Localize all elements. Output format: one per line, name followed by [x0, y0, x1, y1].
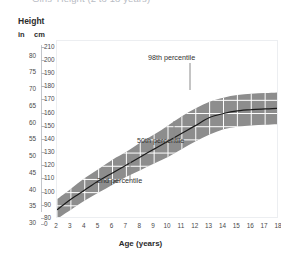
y-tick-cm-140: 140 — [44, 135, 55, 142]
x-axis-tick-labels: 23456789101112131415161718 — [56, 222, 278, 234]
x-tick-13: 13 — [205, 222, 212, 229]
y-tick-in-60: 60 — [18, 119, 36, 126]
y-tick-cm-130: 130 — [44, 148, 55, 155]
annotation-98th-percentile: 98th percentile — [148, 53, 195, 62]
y-tick-mark-160 — [41, 113, 45, 114]
x-tick-6: 6 — [110, 222, 114, 229]
y-tick-cm-200: 200 — [44, 56, 55, 63]
x-tick-10: 10 — [163, 222, 170, 229]
x-tick-4: 4 — [82, 222, 86, 229]
y-tick-cm-110: 110 — [44, 174, 54, 181]
y-tick-mark-200 — [41, 60, 45, 61]
y-tick-in-45: 45 — [18, 169, 36, 176]
y-tick-cm-120: 120 — [44, 161, 55, 168]
annotation-2nd-percentile: 2nd percentile — [97, 176, 142, 185]
x-tick-2: 2 — [54, 222, 58, 229]
y-tick-in-75: 75 — [18, 68, 36, 75]
y-tick-mark-110 — [41, 178, 45, 179]
y-tick-in-80: 80 — [18, 52, 36, 59]
x-tick-11: 11 — [178, 222, 185, 229]
y-tick-cm-190: 190 — [44, 69, 55, 76]
x-tick-16: 16 — [247, 222, 254, 229]
y-axis-spine — [41, 45, 42, 212]
x-tick-3: 3 — [68, 222, 72, 229]
y-tick-cm-180: 180 — [44, 82, 55, 89]
x-tick-5: 5 — [96, 222, 100, 229]
x-tick-12: 12 — [191, 222, 198, 229]
y-tick-cm-150: 150 — [44, 122, 55, 129]
y-tick-cm-90: 90 — [44, 201, 51, 208]
y-tick-in-40: 40 — [18, 186, 36, 193]
y-tick-mark-210 — [41, 47, 45, 48]
y-tick-in-70: 70 — [18, 85, 36, 92]
x-tick-18: 18 — [274, 222, 281, 229]
y-tick-mark-190 — [41, 73, 45, 74]
y-tick-cm-160: 160 — [44, 109, 55, 116]
y-tick-mark-140 — [41, 139, 45, 140]
x-tick-15: 15 — [233, 222, 240, 229]
y-tick-mark-90 — [41, 205, 45, 206]
y-tick-in-55: 55 — [18, 135, 36, 142]
x-tick-14: 14 — [219, 222, 226, 229]
y-tick-mark-100 — [41, 192, 45, 193]
y-tick-mark-120 — [41, 165, 45, 166]
y-tick-in-65: 65 — [18, 102, 36, 109]
y-tick-in-30: 30 — [18, 219, 36, 226]
y-tick-in-50: 50 — [18, 152, 36, 159]
growth-chart-svg — [57, 41, 278, 218]
y-tick-cm-210: 210 — [44, 43, 55, 50]
x-tick-17: 17 — [261, 222, 268, 229]
x-axis-title: Age (years) — [0, 239, 281, 248]
y-tick-mark-80 — [41, 218, 45, 219]
y-tick-in-35: 35 — [18, 202, 36, 209]
chart-title-strip: Girls' Height (2 to 18 years) — [0, 0, 281, 11]
y-tick-mark-0 — [41, 224, 45, 225]
y-tick-cm-170: 170 — [44, 95, 55, 102]
x-tick-8: 8 — [137, 222, 141, 229]
annotation-50th-percentile: 50th percentile — [137, 136, 184, 145]
y-tick-mark-180 — [41, 86, 45, 87]
y-tick-mark-130 — [41, 152, 45, 153]
y-tick-mark-150 — [41, 126, 45, 127]
y-tick-mark-170 — [41, 99, 45, 100]
x-tick-9: 9 — [151, 222, 155, 229]
x-tick-7: 7 — [124, 222, 128, 229]
y-tick-cm-100: 100 — [44, 188, 55, 195]
plot-area — [56, 40, 278, 218]
y-axis-inches-column: 8075706560555045403530 — [18, 0, 36, 259]
